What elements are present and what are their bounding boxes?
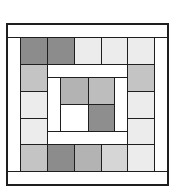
outer-square-r0-c3 (101, 37, 128, 65)
outer-square-r4-c0 (20, 144, 48, 172)
outer-square-r0-c1 (47, 37, 75, 65)
left-strip (7, 37, 21, 172)
outer-square-r0-c2 (74, 37, 102, 65)
center-square-top-right (88, 77, 115, 105)
outer-square-r2-c4 (127, 91, 155, 119)
inner-bottom-bar (47, 131, 128, 145)
outer-square-r4-c3 (101, 144, 128, 172)
outer-square-r3-c4 (127, 118, 155, 145)
outer-square-r1-c0 (20, 64, 48, 92)
outer-square-r4-c4 (127, 144, 155, 172)
bottom-strip (7, 171, 168, 185)
outer-square-r1-c4 (127, 64, 155, 92)
outer-square-r2-c0 (20, 91, 48, 119)
center-square-bottom-right (88, 104, 115, 132)
outer-square-r0-c4 (127, 37, 155, 65)
outer-square-r4-c1 (47, 144, 75, 172)
center-square-bottom-left (60, 104, 89, 132)
outer-square-r4-c2 (74, 144, 102, 172)
inner-top-bar (47, 64, 128, 78)
inner-left-bar (47, 77, 61, 132)
right-strip (154, 37, 168, 172)
inner-right-bar (114, 77, 128, 132)
center-square-top-left (60, 77, 89, 105)
outer-square-r0-c0 (20, 37, 48, 65)
top-strip (7, 24, 168, 38)
outer-square-r3-c0 (20, 118, 48, 145)
